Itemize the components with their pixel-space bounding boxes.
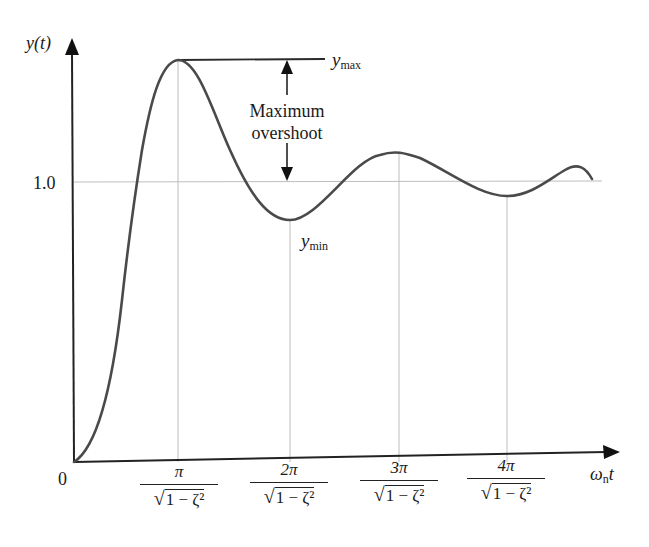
tick-denominator: √1 − ζ²: [354, 481, 444, 506]
x-tick-2pi: 2π √1 − ζ²: [244, 460, 334, 508]
y-axis: [72, 52, 74, 462]
sqrt-icon: √: [264, 485, 275, 507]
radicand: 1 − ζ²: [275, 487, 315, 507]
radicand: 1 − ζ²: [385, 485, 425, 505]
reference-line-1: [74, 181, 602, 182]
tick-denominator: √1 − ζ²: [134, 485, 224, 510]
origin-label: 0: [58, 470, 67, 488]
y-axis-label-text: y(t): [26, 33, 51, 53]
ymin-sub: min: [309, 239, 328, 253]
sqrt-icon: √: [374, 483, 385, 505]
ymax-sub: max: [340, 58, 361, 72]
x-axis-arrow-icon: [603, 445, 620, 459]
sqrt-icon: √: [154, 487, 165, 509]
overshoot-annotation: Maximum overshoot: [232, 100, 342, 144]
x-tick-3pi: 3π √1 − ζ²: [354, 458, 444, 506]
y-axis-arrow-icon: [65, 38, 79, 55]
omega-symbol: ω: [590, 464, 603, 484]
arrow-down-icon: [281, 167, 293, 181]
radicand: 1 − ζ²: [165, 489, 205, 509]
tick-numerator: 3π: [354, 458, 444, 480]
y-tick-1: 1.0: [33, 174, 56, 192]
radicand: 1 − ζ²: [492, 483, 532, 503]
y-axis-label: y(t): [26, 34, 51, 52]
x-tick-4pi: 4π √1 − ζ²: [461, 456, 551, 504]
ymax-label: ymax: [332, 50, 361, 71]
tick-numerator: π: [134, 462, 224, 484]
tick-denominator: √1 − ζ²: [461, 479, 551, 504]
overshoot-line2: overshoot: [232, 122, 342, 144]
tick-numerator: 2π: [244, 460, 334, 482]
ymax-line: [178, 59, 325, 60]
tick-numerator: 4π: [461, 456, 551, 478]
sqrt-icon: √: [481, 481, 492, 503]
arrow-up-icon: [281, 60, 293, 74]
t-symbol: t: [609, 464, 614, 484]
overshoot-line1: Maximum: [232, 100, 342, 122]
tick-denominator: √1 − ζ²: [244, 483, 334, 508]
ymin-label: ymin: [301, 231, 328, 252]
x-axis-label: ωnt: [590, 465, 614, 485]
x-tick-pi: π √1 − ζ²: [134, 462, 224, 510]
